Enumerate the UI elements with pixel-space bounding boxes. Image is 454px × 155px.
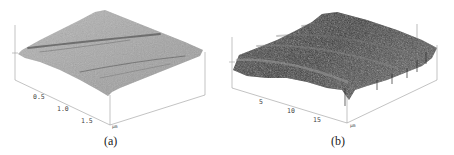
tick-label: 5	[259, 98, 263, 106]
panel-caption-a: (a)	[104, 134, 117, 149]
tick-label: 1.5	[81, 117, 93, 125]
tick-label: 15	[313, 116, 321, 124]
figure-panel-a: 0.5 1.0 1.5 µm (a)	[0, 0, 227, 155]
surface-plot-a: 0.5 1.0 1.5 µm	[0, 0, 227, 155]
tick-label: 1.0	[57, 105, 69, 113]
tick-label: 10	[287, 107, 295, 115]
panel-caption-b: (b)	[331, 134, 345, 149]
axis-unit: µm	[112, 124, 118, 129]
surface-plot-b: 5 10 15 µm	[227, 0, 454, 155]
figure-panel-b: 5 10 15 µm (b)	[227, 0, 454, 155]
tick-label: 0.5	[33, 93, 45, 101]
axis-unit: µm	[350, 123, 356, 128]
